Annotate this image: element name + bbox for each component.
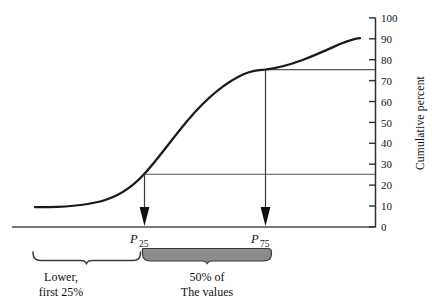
y-tick-label: 80 — [381, 54, 393, 66]
p75-drop-line — [261, 70, 271, 226]
p25-label: P 25 — [129, 232, 149, 249]
y-tick-label: 40 — [381, 137, 393, 149]
lower-caption-line2: first 25% — [39, 285, 83, 299]
y-axis-ticks — [369, 18, 376, 227]
p75-label: P 75 — [250, 232, 270, 249]
middle-caption-line1: 50% of — [190, 270, 225, 284]
y-tick-label: 10 — [381, 200, 393, 212]
middle-brace-filled — [142, 249, 271, 264]
p25-subscript: 25 — [139, 239, 149, 249]
lower-brace-caption: Lower, first 25% — [39, 270, 83, 299]
middle-caption-line2: The values — [181, 285, 234, 299]
p25-drop-line — [140, 174, 150, 226]
y-tick-label: 70 — [381, 75, 393, 87]
ogive-percentile-figure: 100 90 80 70 60 50 40 30 20 10 0 Cumulat… — [0, 0, 432, 305]
y-axis-title: Cumulative percent — [414, 75, 427, 170]
y-tick-label: 30 — [381, 158, 393, 170]
ogive-curve — [35, 38, 360, 207]
y-tick-label: 90 — [381, 33, 393, 45]
middle-brace-caption: 50% of The values — [181, 270, 234, 299]
lower-caption-line1: Lower, — [44, 270, 78, 284]
p75-symbol: P — [250, 232, 259, 246]
y-tick-label: 0 — [381, 221, 387, 233]
p75-subscript: 75 — [260, 239, 270, 249]
y-tick-label: 60 — [381, 96, 393, 108]
lower-brace-outline — [33, 252, 141, 264]
y-tick-label: 20 — [381, 179, 393, 191]
y-tick-label: 100 — [381, 12, 398, 24]
y-tick-label: 50 — [381, 117, 393, 129]
p25-symbol: P — [129, 232, 138, 246]
y-axis-tick-labels: 100 90 80 70 60 50 40 30 20 10 0 — [381, 12, 398, 233]
